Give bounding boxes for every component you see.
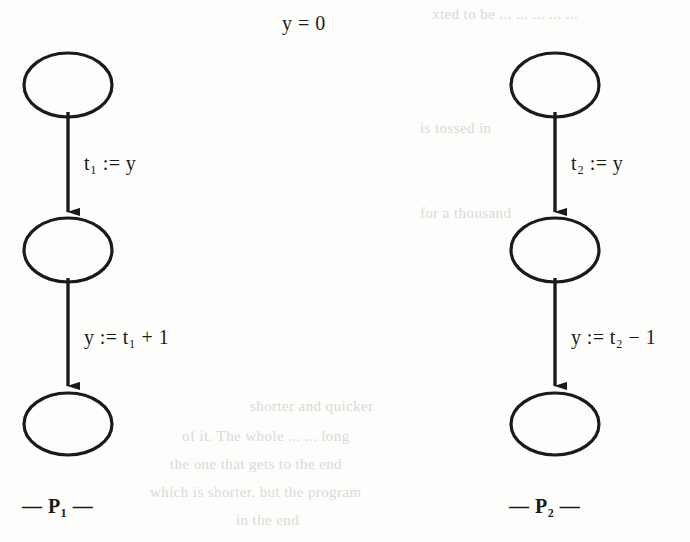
process-p2-graph [511, 53, 599, 455]
node-p2-state-1[interactable] [511, 53, 599, 117]
edge-label-p2-assign-y: y := t₂ − 1 [571, 326, 656, 349]
node-p1-state-1[interactable] [24, 53, 112, 117]
process-graph [0, 0, 690, 542]
edge-label-p1-assign-y: y := t₁ + 1 [84, 326, 169, 349]
edge-label-p1-assign-t1: t₁ := y [84, 152, 136, 175]
process-p1-graph [24, 53, 112, 455]
figure-canvas: xted to be ... ... ... ... ... is tossed… [0, 0, 690, 542]
initial-condition-label: y = 0 [282, 12, 326, 35]
node-p1-state-3[interactable] [24, 393, 112, 455]
node-p2-state-2[interactable] [511, 218, 599, 282]
node-p2-state-3[interactable] [511, 393, 599, 455]
process-caption-p1: — P₁ — [22, 495, 93, 518]
node-p1-state-2[interactable] [24, 218, 112, 282]
process-caption-p2: — P₂ — [509, 495, 580, 518]
edge-label-p2-assign-t2: t₂ := y [571, 152, 623, 175]
